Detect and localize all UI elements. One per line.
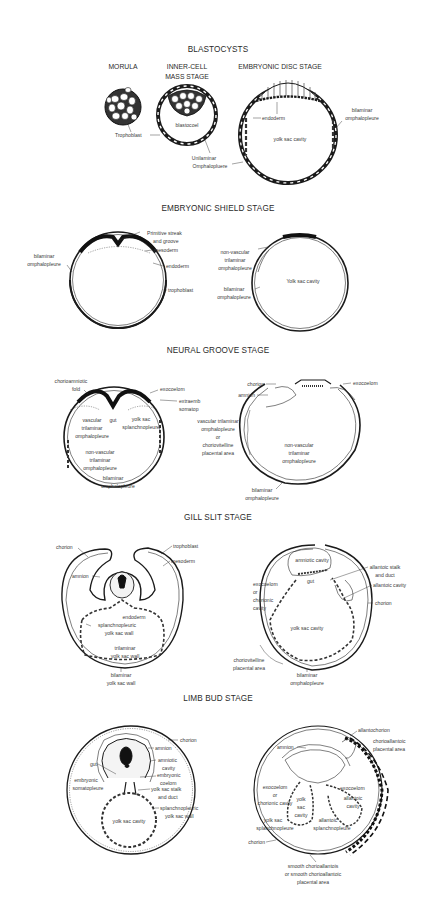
morula-figure <box>105 88 141 126</box>
label-bilaminar-2: omphalopleure <box>27 261 61 267</box>
label-all-spl-1: allantoic <box>319 817 338 823</box>
label-amnion: amnion <box>238 392 255 398</box>
label-gut: gut <box>307 578 315 584</box>
label-vt-3: or <box>216 434 221 440</box>
section-title: BLASTOCYSTS <box>188 45 249 54</box>
label-nonvascular-1: non-vascular <box>220 249 249 255</box>
label-bil-r2: omphalopleure <box>290 680 324 686</box>
gill-slit-section: GILL SLIT STAGE chorion trophoblast meso… <box>56 513 407 686</box>
label-splanch-1: splanchnopleuric <box>98 622 137 628</box>
label-mesoderm: mesoderm <box>171 558 195 564</box>
label-yolk-sac-cavity: yolk sac cavity <box>274 136 307 142</box>
label-chorion-r: chorion <box>375 600 392 606</box>
label-nonvascular-1: non-vascular <box>85 449 114 455</box>
embryology-diagram: BLASTOCYSTS MORULA INNER-CELL MASS STAGE… <box>0 0 434 897</box>
label-vascular-3: omphalopleure <box>75 433 109 439</box>
label-gut: gut <box>90 761 98 767</box>
label-nonvascular-3: omphalopleure <box>83 465 117 471</box>
label-vt-1: vascular trilaminar <box>197 418 239 424</box>
label-ysc-3: cavity <box>294 812 307 818</box>
label-bilaminar-r2: omphalopleure <box>217 294 251 300</box>
label-tri-2: yolk sac wall <box>111 653 140 659</box>
label-primitive-streak-1: Primitive streak <box>147 230 182 236</box>
label-all-cav-2: cavity <box>346 803 359 809</box>
gill-right-figure <box>260 545 372 670</box>
label-exo-3: chorionic <box>253 597 274 603</box>
label-vt-5: placental area <box>202 450 234 456</box>
subtitle-morula: MORULA <box>108 63 138 70</box>
label-smooth-1: smooth chorioallantois <box>288 863 339 869</box>
label-exo-r: exocoelom <box>340 785 365 791</box>
neural-right-figure <box>240 380 360 484</box>
label-nonvascular-r1: non-vascular <box>284 442 313 448</box>
subtitle-embryonic-disc: EMBRYONIC DISC STAGE <box>238 63 322 70</box>
label-allantoic-cavity: allantoic cavity <box>373 582 407 588</box>
label-nonvascular-3: omphalopleure <box>218 265 252 271</box>
label-trophoblast: trophoblast <box>168 287 194 293</box>
limb-bud-section: LIMB BUD STAGE chorion amnion amniotic c… <box>67 694 406 885</box>
label-chorion-r: chorion <box>248 839 265 845</box>
label-bilaminar-1: bilaminar <box>34 253 55 259</box>
subtitle-mass-stage: MASS STAGE <box>165 73 209 80</box>
label-ca-1: chorioallantoic <box>373 738 406 744</box>
inner-cell-mass-figure <box>158 86 216 144</box>
label-exo-l2: or <box>273 792 278 798</box>
label-vascular-1: vascular <box>83 417 102 423</box>
label-emb-som-1: embryonic <box>74 777 98 783</box>
label-emb-som-2: somatopleure <box>73 785 104 791</box>
label-nonvascular-r2: trilaminar <box>289 450 310 456</box>
section-title: EMBRYONIC SHIELD STAGE <box>162 204 275 213</box>
label-chorion: chorion <box>180 737 197 743</box>
label-exo-l3: chorionic cavity <box>258 800 293 806</box>
label-extraemb-2: somatop <box>179 406 199 412</box>
section-title: LIMB BUD STAGE <box>183 694 253 703</box>
label-endoderm: endoderm <box>166 263 189 269</box>
section-title: NEURAL GROOVE STAGE <box>167 346 270 355</box>
embryonic-disc-figure <box>240 80 336 183</box>
label-bilaminar-2: omphalopleure <box>345 115 379 121</box>
label-chorioamniotic-1: chorioamniotic <box>55 378 88 384</box>
label-bilaminar-r1: bilaminar <box>224 286 245 292</box>
label-yolk-sac-2: splanchnopleure <box>122 424 160 430</box>
label-unilaminar-1: Unilaminar <box>192 155 217 161</box>
label-trophoblast: trophoblast <box>173 543 199 549</box>
label-exo-4: cavity <box>253 605 266 611</box>
label-chorion: chorion <box>56 544 73 550</box>
label-allantochorion: allantochorion <box>358 727 390 733</box>
label-endoderm: endoderm <box>262 115 285 121</box>
label-trophoblast: Trophoblast <box>115 132 142 138</box>
label-tri-1: trilaminar <box>115 645 136 651</box>
label-bil-2: yolk sac wall <box>107 680 136 686</box>
label-ys-spl-1: yolk sac <box>264 817 283 823</box>
label-amnion: amnion <box>155 745 172 751</box>
label-all-cav-1: allantoic <box>344 795 363 801</box>
label-yolk-sac-1: yolk sac <box>132 416 151 422</box>
label-unilaminar-2: Omphalopluere <box>193 163 228 169</box>
label-bilaminar-1: bilaminar <box>103 475 124 481</box>
label-amniotic-2: cavity <box>162 765 175 771</box>
label-amnion: amnion <box>72 573 89 579</box>
label-vt-2: omphalopleure <box>201 426 235 432</box>
label-yolk-sac-cavity: Yolk sac cavity <box>286 278 320 284</box>
label-emb-coelom-1: embryonic <box>157 772 181 778</box>
label-exo-l1: exocoelom <box>263 784 288 790</box>
label-endoderm: endoderm <box>123 614 146 620</box>
label-yolk-sac-cavity: yolk sac cavity <box>291 625 324 631</box>
label-ca-2: placental area <box>373 746 405 752</box>
label-primitive-streak-2: and groove <box>153 238 179 244</box>
label-gut: gut <box>109 417 117 423</box>
label-ys-stalk-1: yolk sac stalk <box>151 786 182 792</box>
blastocysts-section: BLASTOCYSTS MORULA INNER-CELL MASS STAGE… <box>105 45 379 183</box>
label-all-spl-2: splanchnopleure <box>313 825 351 831</box>
label-nonvascular-r3: omphalopleure <box>282 458 316 464</box>
label-exo-1: exocoelom <box>253 581 278 587</box>
label-nonvascular-2: trilaminar <box>90 457 111 463</box>
label-blastocoel: blastocoel <box>176 122 199 128</box>
label-ysc-2: sac <box>297 804 305 810</box>
shield-left-figure <box>70 232 166 328</box>
label-ys-stalk-2: and duct <box>158 794 178 800</box>
label-splanch-2: yolk sac wall <box>105 630 134 636</box>
subtitle-inner-cell: INNER-CELL <box>167 63 208 70</box>
label-bil-r1: bilaminar <box>297 672 318 678</box>
label-smooth-3: placental area <box>297 879 329 885</box>
